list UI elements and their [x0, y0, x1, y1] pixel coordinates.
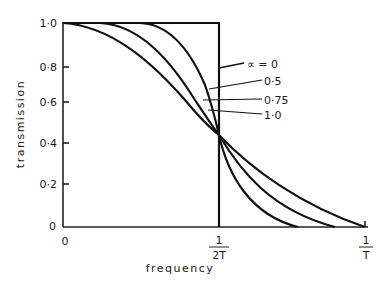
- y-axis-title: transmission: [14, 80, 27, 168]
- curve-alpha-1.0: [63, 23, 365, 227]
- svg-text:1: 1: [216, 234, 223, 247]
- curve-alpha-0.5: [63, 23, 298, 227]
- svg-text:2T: 2T: [212, 249, 226, 262]
- svg-text:0·5: 0·5: [264, 75, 282, 88]
- y-tick-label-1.0: 1·0: [40, 17, 58, 30]
- svg-text:T: T: [362, 249, 370, 262]
- x-tick-label-1-over-2T: 1 2T: [209, 234, 229, 262]
- svg-text:1: 1: [363, 234, 370, 247]
- annotation-alpha-0: ∝ = 0: [219, 58, 278, 71]
- y-tick-label-0.8: 0·8: [40, 61, 58, 74]
- y-tick-label-0: 0: [49, 220, 56, 233]
- annotation-alpha-0.75: 0·75: [203, 94, 289, 107]
- y-tick-label-0.6: 0·6: [40, 96, 58, 109]
- y-tick-label-0.4: 0·4: [40, 137, 58, 150]
- svg-text:∝ = 0: ∝ = 0: [247, 58, 278, 71]
- svg-text:1·0: 1·0: [264, 109, 282, 122]
- x-tick-label-1-over-T: 1 T: [359, 234, 373, 262]
- curve-alpha-0: [63, 23, 219, 227]
- y-tick-label-0.2: 0·2: [40, 178, 58, 191]
- raised-cosine-chart: 1·0 0·8 0·6 0·4 0·2 0 0 1 2T 1 T frequen…: [0, 0, 392, 283]
- y-ticks: [63, 67, 69, 184]
- x-tick-label-0: 0: [62, 235, 69, 248]
- curve-alpha-0.75: [63, 23, 335, 227]
- svg-text:0·75: 0·75: [264, 94, 289, 107]
- x-axis-title: frequency: [146, 262, 215, 275]
